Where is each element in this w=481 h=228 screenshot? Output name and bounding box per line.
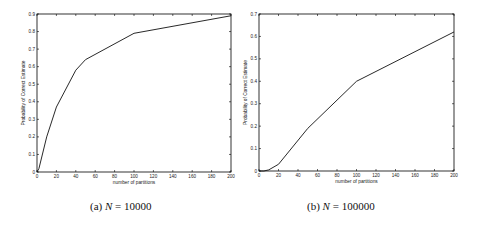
y-tick-label: 0.2 <box>251 124 258 129</box>
caption-b: (b) N = 100000 <box>307 200 375 212</box>
y-tick-label: 0.3 <box>251 101 258 106</box>
x-tick-label: 80 <box>334 173 340 178</box>
y-tick-label: 0.7 <box>29 47 36 52</box>
y-axis-title: Probability of Correct Estimate <box>243 60 248 125</box>
y-tick-label: 0 <box>254 169 257 174</box>
x-axis-title: number of partitions <box>113 180 156 185</box>
x-tick-label: 200 <box>227 174 235 179</box>
y-tick-label: 0.5 <box>251 56 258 61</box>
plot-frame <box>259 14 454 171</box>
y-tick-label: 0.1 <box>251 146 258 151</box>
x-axis-title: number of partitions <box>335 179 378 184</box>
y-tick-label: 0.3 <box>29 117 36 122</box>
caption-b-equals: = <box>333 200 339 212</box>
y-tick-label: 0.8 <box>29 29 36 34</box>
caption-a-value: 10000 <box>124 200 152 212</box>
x-tick-label: 40 <box>73 174 79 179</box>
x-tick-label: 140 <box>392 173 400 178</box>
y-tick-label: 0.7 <box>251 12 258 17</box>
x-tick-label: 160 <box>411 173 419 178</box>
chart-b: 02040608010012014016018020000.10.20.30.4… <box>243 12 458 184</box>
caption-b-value: 100000 <box>342 200 375 212</box>
x-tick-label: 40 <box>295 173 301 178</box>
caption-a-equals: = <box>115 200 121 212</box>
x-tick-label: 120 <box>150 174 158 179</box>
y-tick-label: 0.2 <box>29 134 36 139</box>
x-tick-label: 140 <box>169 174 177 179</box>
x-tick-label: 180 <box>208 174 216 179</box>
y-tick-label: 0.1 <box>29 152 36 157</box>
y-tick-label: 0.5 <box>29 82 36 87</box>
y-tick-label: 0.6 <box>29 64 36 69</box>
y-tick-label: 0 <box>32 170 35 175</box>
x-tick-label: 0 <box>258 173 261 178</box>
x-tick-label: 120 <box>372 173 380 178</box>
x-tick-label: 180 <box>431 173 439 178</box>
series-line <box>37 16 231 172</box>
caption-a-label: (a) <box>90 200 102 212</box>
caption-b-variable: N <box>323 200 330 212</box>
plot-frame <box>37 14 231 172</box>
x-tick-label: 160 <box>188 174 196 179</box>
x-tick-label: 60 <box>93 174 99 179</box>
series-line <box>259 32 454 171</box>
y-tick-label: 0.4 <box>251 79 258 84</box>
chart-a: 02040608010012014016018020000.10.20.30.4… <box>21 12 235 185</box>
caption-b-label: (b) <box>307 200 320 212</box>
x-tick-label: 200 <box>450 173 458 178</box>
x-tick-label: 80 <box>112 174 118 179</box>
x-tick-label: 20 <box>54 174 60 179</box>
caption-a: (a) N = 10000 <box>90 200 152 212</box>
x-tick-label: 60 <box>315 173 321 178</box>
x-tick-label: 100 <box>353 173 361 178</box>
caption-a-variable: N <box>105 200 112 212</box>
y-axis-title: Probability of Correct Estimate <box>21 60 26 125</box>
figure: 02040608010012014016018020000.10.20.30.4… <box>0 0 481 228</box>
y-tick-label: 0.6 <box>251 34 258 39</box>
x-tick-label: 20 <box>276 173 282 178</box>
y-tick-label: 0.4 <box>29 99 36 104</box>
y-tick-label: 0.9 <box>29 12 36 17</box>
x-tick-label: 100 <box>130 174 138 179</box>
x-tick-label: 0 <box>36 174 39 179</box>
